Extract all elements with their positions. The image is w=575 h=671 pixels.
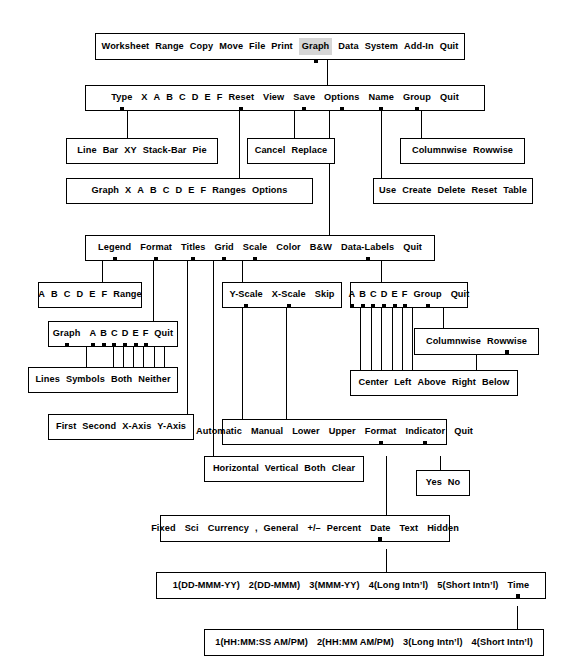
dl-item-a[interactable]: A <box>349 290 356 299</box>
dl-item-group[interactable]: Group <box>414 290 442 299</box>
titles-item-xaxis[interactable]: X-Axis <box>122 422 151 431</box>
main-menu-box[interactable]: Worksheet Range Copy Move File Print Gra… <box>95 33 465 60</box>
reset-item-x[interactable]: X <box>125 186 131 195</box>
dl-group-item-rowwise[interactable]: Rowwise <box>487 337 527 346</box>
menu-item-print[interactable]: Print <box>271 42 292 51</box>
graph-item-d[interactable]: D <box>192 93 199 102</box>
graph-item-b[interactable]: B <box>166 93 173 102</box>
reset-item-e[interactable]: E <box>188 186 194 195</box>
date-item-4[interactable]: 4(Long Intn’l) <box>369 581 429 590</box>
format-item-f[interactable]: F <box>143 329 149 338</box>
name-item-table[interactable]: Table <box>503 186 527 195</box>
options-grid-menu-box[interactable]: Horizontal Vertical Both Clear <box>204 456 364 482</box>
options-item-scale[interactable]: Scale <box>243 243 268 252</box>
axis-item-lower[interactable]: Lower <box>292 427 320 436</box>
type-item-bar[interactable]: Bar <box>103 146 119 155</box>
options-data-labels-menu-box[interactable]: A B C D E F Group Quit <box>350 282 468 308</box>
ft-item-fixed[interactable]: Fixed <box>151 524 176 533</box>
legend-item-f[interactable]: F <box>101 290 107 299</box>
format-item-c[interactable]: C <box>111 329 118 338</box>
ft-item-hidden[interactable]: Hidden <box>427 524 459 533</box>
graph-item-quit[interactable]: Quit <box>440 93 459 102</box>
menu-item-worksheet[interactable]: Worksheet <box>102 42 150 51</box>
dl-pos-item-above[interactable]: Above <box>417 378 446 387</box>
scale-item-xscale[interactable]: X-Scale <box>272 290 306 299</box>
name-item-use[interactable]: Use <box>379 186 396 195</box>
reset-item-d[interactable]: D <box>176 186 183 195</box>
date-item-2[interactable]: 2(DD-MMM) <box>249 581 300 590</box>
menu-item-file[interactable]: File <box>249 42 265 51</box>
data-labels-position-menu-box[interactable]: Center Left Above Right Below <box>350 370 518 396</box>
options-legend-menu-box[interactable]: A B C D E F Range <box>38 282 142 308</box>
graph-item-f[interactable]: F <box>217 93 223 102</box>
indicator-item-no[interactable]: No <box>448 478 460 487</box>
menu-item-quit[interactable]: Quit <box>440 42 459 51</box>
style-item-lines[interactable]: Lines <box>35 375 60 384</box>
graph-menu-box[interactable]: Type X A B C D E F Reset View Save Optio… <box>85 85 485 111</box>
time-item-3[interactable]: 3(Long Intn’l) <box>403 638 463 647</box>
reset-item-graph[interactable]: Graph <box>92 186 120 195</box>
format-item-graph[interactable]: Graph <box>53 329 81 338</box>
ft-item-text[interactable]: Text <box>400 524 419 533</box>
graph-item-group[interactable]: Group <box>403 93 431 102</box>
name-item-reset[interactable]: Reset <box>472 186 498 195</box>
graph-options-menu-box[interactable]: Legend Format Titles Grid Scale Color B&… <box>85 235 435 261</box>
options-item-color[interactable]: Color <box>276 243 301 252</box>
axis-item-format[interactable]: Format <box>365 427 397 436</box>
menu-item-addin[interactable]: Add-In <box>404 42 434 51</box>
axis-item-automatic[interactable]: Automatic <box>196 427 242 436</box>
type-item-line[interactable]: Line <box>77 146 96 155</box>
reset-item-f[interactable]: F <box>201 186 207 195</box>
ft-item-date[interactable]: Date <box>370 524 390 533</box>
format-item-e[interactable]: E <box>132 329 138 338</box>
format-item-quit[interactable]: Quit <box>154 329 173 338</box>
ft-item-plusminus[interactable]: +/– <box>307 524 320 533</box>
options-format-style-menu-box[interactable]: Lines Symbols Both Neither <box>28 367 178 393</box>
scale-item-yscale[interactable]: Y-Scale <box>229 290 262 299</box>
dl-pos-item-left[interactable]: Left <box>394 378 411 387</box>
ft-item-general[interactable]: General <box>264 524 299 533</box>
graph-item-type[interactable]: Type <box>111 93 132 102</box>
format-type-menu-box[interactable]: Fixed Sci Currency , General +/– Percent… <box>160 515 450 542</box>
options-scale-menu-box[interactable]: Y-Scale X-Scale Skip <box>222 282 342 308</box>
options-item-grid[interactable]: Grid <box>214 243 233 252</box>
graph-item-save[interactable]: Save <box>293 93 315 102</box>
reset-item-c[interactable]: C <box>163 186 170 195</box>
time-item-1[interactable]: 1(HH:MM:SS AM/PM) <box>215 638 308 647</box>
type-item-xy[interactable]: XY <box>124 146 136 155</box>
format-time-menu-box[interactable]: 1(HH:MM:SS AM/PM) 2(HH:MM AM/PM) 3(Long … <box>204 629 544 656</box>
options-scale-indicator-menu-box[interactable]: Yes No <box>416 470 470 496</box>
dl-item-quit[interactable]: Quit <box>451 290 470 299</box>
graph-item-x[interactable]: X <box>141 93 147 102</box>
graph-item-view[interactable]: View <box>263 93 284 102</box>
dl-item-b[interactable]: B <box>359 290 366 299</box>
menu-item-copy[interactable]: Copy <box>190 42 213 51</box>
group-item-rowwise[interactable]: Rowwise <box>473 146 513 155</box>
grid-item-clear[interactable]: Clear <box>332 464 355 473</box>
legend-item-e[interactable]: E <box>89 290 95 299</box>
options-format-menu-box[interactable]: Graph A B C D E F Quit <box>48 321 178 347</box>
dl-item-e[interactable]: E <box>392 290 398 299</box>
dl-item-f[interactable]: F <box>402 290 408 299</box>
dl-pos-item-below[interactable]: Below <box>482 378 510 387</box>
graph-group-menu-box[interactable]: Columnwise Rowwise <box>400 138 525 164</box>
options-item-datalabels[interactable]: Data-Labels <box>341 243 394 252</box>
format-date-menu-box[interactable]: 1(DD-MMM-YY) 2(DD-MMM) 3(MMM-YY) 4(Long … <box>156 572 546 599</box>
axis-item-indicator[interactable]: Indicator <box>405 427 445 436</box>
date-item-time[interactable]: Time <box>507 581 529 590</box>
save-item-cancel[interactable]: Cancel <box>255 146 286 155</box>
reset-item-options[interactable]: Options <box>252 186 287 195</box>
ft-item-sci[interactable]: Sci <box>185 524 199 533</box>
dl-pos-item-right[interactable]: Right <box>452 378 476 387</box>
format-item-d[interactable]: D <box>122 329 129 338</box>
date-item-5[interactable]: 5(Short Intn’l) <box>437 581 498 590</box>
options-item-legend[interactable]: Legend <box>98 243 131 252</box>
time-item-4[interactable]: 4(Short Intn’l) <box>472 638 533 647</box>
options-scale-axis-menu-box[interactable]: Automatic Manual Lower Upper Format Indi… <box>222 419 447 445</box>
graph-item-name[interactable]: Name <box>369 93 394 102</box>
graph-name-menu-box[interactable]: Use Create Delete Reset Table <box>373 178 533 204</box>
time-item-2[interactable]: 2(HH:MM AM/PM) <box>317 638 394 647</box>
legend-item-a[interactable]: A <box>38 290 45 299</box>
style-item-both[interactable]: Both <box>111 375 132 384</box>
titles-item-yaxis[interactable]: Y-Axis <box>157 422 186 431</box>
